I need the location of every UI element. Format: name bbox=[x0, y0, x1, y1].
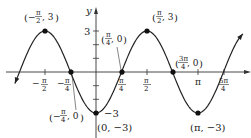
label-half-3: ( π 2 , 3 ) bbox=[152, 9, 178, 25]
svg-text:−: − bbox=[32, 78, 40, 88]
svg-text:4: 4 bbox=[221, 85, 226, 93]
svg-text:π: π bbox=[36, 9, 41, 17]
svg-text:−: − bbox=[57, 78, 65, 88]
svg-text:−: − bbox=[53, 111, 61, 121]
svg-text:, 3: , 3 bbox=[162, 12, 174, 22]
svg-text:4: 4 bbox=[65, 85, 70, 93]
point-zero-neg-quarter bbox=[68, 69, 73, 74]
svg-text:π: π bbox=[65, 77, 70, 85]
svg-text:2: 2 bbox=[36, 17, 40, 25]
x-tick-half: π 2 bbox=[143, 77, 151, 93]
label-neg-half-3: ( − π 2 , 3 ) bbox=[24, 9, 59, 25]
svg-text:, 0: , 0 bbox=[67, 111, 79, 121]
svg-text:2: 2 bbox=[42, 85, 46, 93]
label-0-neg-3: (0, −3) bbox=[97, 122, 132, 133]
svg-text:4: 4 bbox=[119, 85, 124, 93]
y-tick-3: 3 bbox=[84, 26, 90, 37]
svg-text:4: 4 bbox=[181, 63, 186, 71]
x-axis bbox=[6, 70, 251, 74]
svg-text:(: ( bbox=[152, 12, 156, 23]
point-zero-three-quarter bbox=[170, 69, 175, 74]
y-tick-neg-3: −3 bbox=[104, 108, 119, 119]
x-tick-five-quarter: 5π 4 bbox=[218, 77, 229, 93]
x-tick-pi: π bbox=[195, 77, 201, 87]
y-axis bbox=[94, 7, 98, 138]
svg-text:): ) bbox=[123, 34, 127, 45]
svg-text:, 0: , 0 bbox=[111, 34, 123, 44]
label-quarter-0: ( π 4 , 0 ) bbox=[101, 31, 127, 47]
cosine-graph: y 3 − π 2 − π 4 π 4 π 2 bbox=[0, 0, 251, 138]
point-min-pi bbox=[195, 110, 200, 115]
svg-text:): ) bbox=[80, 112, 84, 123]
label-neg-quarter-0: ( − π 4 , 0 ) bbox=[49, 108, 84, 124]
y-axis-arrow-icon bbox=[94, 7, 98, 14]
svg-text:): ) bbox=[199, 58, 203, 69]
curve-left-arrow-icon bbox=[15, 77, 19, 83]
x-axis-arrow-icon bbox=[244, 70, 251, 74]
svg-text:2: 2 bbox=[157, 17, 161, 25]
x-tick-neg-half: − π 2 bbox=[32, 77, 48, 93]
label-three-quarter-0: ( 3π 4 , 0 ) bbox=[175, 55, 203, 71]
svg-text:−: − bbox=[28, 12, 36, 22]
label-pi-neg-3: (π, −3) bbox=[190, 122, 226, 133]
svg-text:, 3: , 3 bbox=[42, 12, 54, 22]
svg-text:, 0: , 0 bbox=[187, 58, 199, 68]
svg-text:π: π bbox=[61, 108, 66, 116]
point-min-zero bbox=[93, 110, 98, 115]
svg-text:): ) bbox=[55, 12, 59, 23]
point-max-neg-half bbox=[42, 28, 47, 33]
svg-text:π: π bbox=[119, 77, 124, 85]
svg-text:(: ( bbox=[101, 34, 105, 45]
svg-text:4: 4 bbox=[61, 116, 66, 124]
point-max-half bbox=[144, 28, 149, 33]
leader-line-quarter bbox=[117, 47, 121, 70]
x-tick-neg-quarter: − π 4 bbox=[57, 77, 71, 93]
point-zero-quarter bbox=[119, 69, 124, 74]
svg-text:2: 2 bbox=[144, 85, 148, 93]
y-axis-label: y bbox=[85, 5, 92, 16]
svg-text:π: π bbox=[144, 77, 149, 85]
svg-text:π: π bbox=[42, 77, 47, 85]
svg-text:): ) bbox=[174, 12, 178, 23]
